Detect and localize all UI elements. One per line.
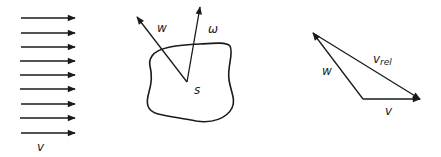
body-center-label: s <box>194 83 200 97</box>
rigid-body-outline <box>147 43 233 122</box>
body-omega-label: ω <box>208 22 218 36</box>
body-w-label: w <box>157 21 167 35</box>
triangle-w-vector <box>313 33 363 99</box>
diagram-canvas: v w ω s vrel w v <box>0 0 441 157</box>
triangle-w-label: w <box>322 64 332 78</box>
triangle-v-label: v <box>385 104 393 118</box>
triangle-vrel-label: vrel <box>373 52 392 67</box>
stream-velocity-label: v <box>37 140 45 154</box>
uniform-stream <box>20 18 75 133</box>
